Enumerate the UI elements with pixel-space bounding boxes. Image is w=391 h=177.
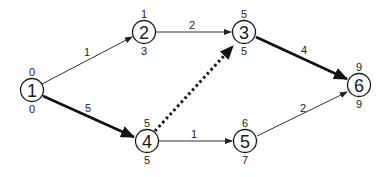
node-4-label: 4 <box>142 132 152 152</box>
node-5-bottom-value: 7 <box>242 154 248 166</box>
edge-weight-1-4: 5 <box>85 102 91 114</box>
edge-5-6 <box>257 92 347 136</box>
node-6-top-value: 9 <box>356 61 362 73</box>
node-5: 5 6 7 <box>234 117 257 166</box>
node-3-bottom-value: 5 <box>241 45 247 57</box>
edge-weight-4-5: 1 <box>191 128 197 140</box>
edge-weight-3-6: 4 <box>301 44 307 56</box>
node-3: 3 5 5 <box>233 8 256 57</box>
node-2: 2 1 3 <box>133 8 156 57</box>
node-3-label: 3 <box>239 23 249 43</box>
node-2-bottom-value: 3 <box>141 45 147 57</box>
edge-1-2 <box>42 37 132 84</box>
node-1: 1 0 0 <box>21 66 44 115</box>
edge-weight-5-6: 2 <box>300 102 306 114</box>
node-5-top-value: 6 <box>242 117 248 129</box>
node-1-label: 1 <box>27 81 37 101</box>
node-6: 6 9 9 <box>348 61 371 110</box>
edge-4-3-dummy <box>155 46 233 131</box>
node-6-label: 6 <box>354 76 364 96</box>
node-6-bottom-value: 9 <box>356 98 362 110</box>
edge-weight-1-2: 1 <box>84 46 90 58</box>
node-1-bottom-value: 0 <box>29 103 35 115</box>
node-3-top-value: 5 <box>241 8 247 20</box>
node-4-bottom-value: 5 <box>144 154 150 166</box>
node-5-label: 5 <box>240 132 250 152</box>
network-diagram: 1 5 2 1 4 2 1 0 0 2 1 3 3 5 5 <box>0 0 391 177</box>
node-4: 4 5 5 <box>136 117 159 166</box>
node-1-top-value: 0 <box>29 66 35 78</box>
edges: 1 5 2 1 4 2 <box>42 19 347 141</box>
node-4-top-value: 5 <box>144 117 150 129</box>
edge-weight-2-3: 2 <box>189 19 195 31</box>
node-2-label: 2 <box>139 23 149 43</box>
node-2-top-value: 1 <box>141 8 147 20</box>
